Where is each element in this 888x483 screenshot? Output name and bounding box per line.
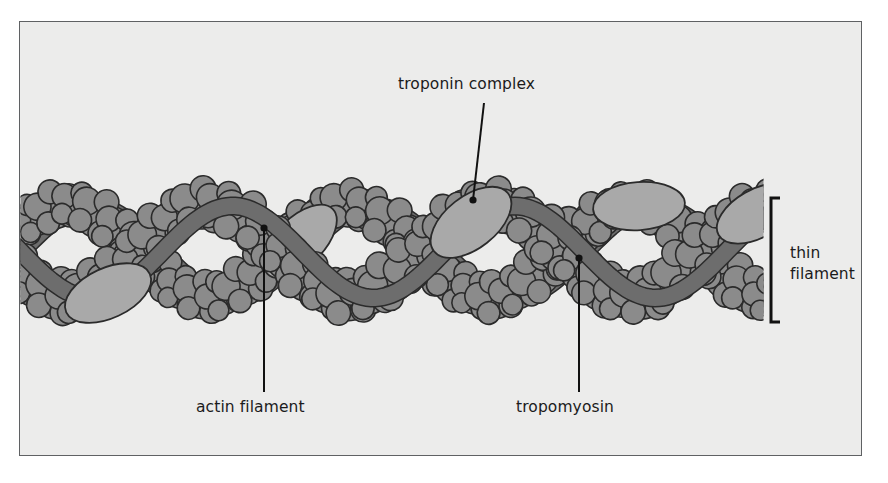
thin-filament-body (0, 171, 807, 335)
figure-page: troponin complex actin filament tropomyo… (0, 0, 888, 483)
label-troponin-complex: troponin complex (398, 75, 535, 94)
thin-filament-illustration (0, 0, 888, 483)
label-thin-filament-line2: filament (790, 265, 855, 283)
label-tropomyosin: tropomyosin (516, 398, 614, 417)
label-actin-filament: actin filament (196, 398, 305, 417)
label-thin-filament: thinfilament (790, 243, 860, 285)
label-thin-filament-line1: thin (790, 244, 820, 262)
